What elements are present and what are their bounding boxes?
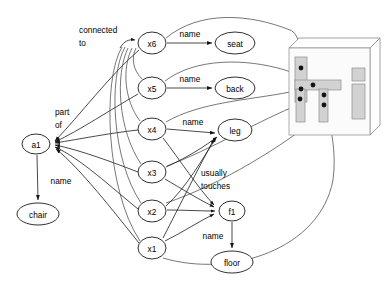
- node-f1-label: f1: [229, 207, 236, 217]
- node-x5-label: x5: [148, 84, 157, 94]
- label-usually-touches-line2: touches: [201, 181, 230, 191]
- node-x4-label: x4: [148, 125, 157, 135]
- edge-x6-a1-part-of: [55, 50, 139, 141]
- label-connected-to-line2: to: [79, 38, 86, 48]
- label-name-floor: name: [203, 231, 224, 241]
- diagram-svg: a1 chair x6 x5 x4 x3 x2 x1: [0, 0, 391, 293]
- label-name-chair: name: [51, 176, 72, 186]
- label-name-back: name: [180, 74, 201, 84]
- node-x3-label: x3: [148, 168, 157, 178]
- joint-back-lower-icon: [299, 87, 304, 92]
- edge-x4-a1-part-of: [55, 130, 138, 143]
- label-connected-to-line1: connected: [79, 25, 118, 35]
- edge-x3-a1-part-of: [55, 145, 138, 172]
- node-x2-label: x2: [148, 207, 157, 217]
- edge-a1-chair-name: [37, 155, 38, 200]
- node-seat-label: seat: [227, 39, 243, 49]
- node-leg-label: leg: [229, 126, 240, 136]
- node-f1[interactable]: f1: [219, 201, 245, 221]
- chair-leg-back: [296, 89, 305, 122]
- node-x5[interactable]: x5: [138, 77, 166, 99]
- node-a1-label: a1: [31, 140, 41, 150]
- joint-leg-front2-icon: [322, 103, 327, 108]
- label-name-leg: name: [183, 117, 204, 127]
- node-x4[interactable]: x4: [138, 118, 166, 140]
- node-x1[interactable]: x1: [138, 237, 166, 259]
- chair-illustration: [289, 38, 380, 135]
- side-square: [352, 68, 365, 81]
- joint-leg-front-icon: [322, 93, 327, 98]
- label-usually-touches-line1: usually: [201, 168, 228, 178]
- node-chair[interactable]: chair: [17, 203, 59, 225]
- label-part-of-line1: part: [55, 107, 70, 117]
- edge-x4-leg-name: [167, 129, 215, 133]
- node-seat[interactable]: seat: [215, 32, 255, 54]
- node-floor-label: floor: [224, 258, 240, 268]
- node-x3[interactable]: x3: [138, 161, 166, 183]
- node-back-label: back: [226, 84, 244, 94]
- node-leg[interactable]: leg: [218, 119, 252, 141]
- joint-back-top-icon: [299, 66, 304, 71]
- joint-seat-mid-icon: [311, 83, 316, 88]
- node-chair-label: chair: [29, 210, 47, 220]
- node-x2[interactable]: x2: [138, 200, 166, 222]
- edge-connected-to-arrowhead: [120, 40, 135, 48]
- label-name-seat: name: [180, 29, 201, 39]
- edge-x5-a1-part-of: [55, 94, 138, 142]
- side-rect: [352, 84, 365, 119]
- node-x1-label: x1: [148, 244, 157, 254]
- name-edge-group: [37, 43, 232, 248]
- node-x6-label: x6: [148, 39, 157, 49]
- joint-leg-back-icon: [298, 97, 303, 102]
- node-floor[interactable]: floor: [211, 251, 253, 273]
- node-back[interactable]: back: [215, 77, 255, 99]
- picture-box-top-face: [289, 38, 380, 48]
- edge-x1-a1-part-of: [56, 149, 139, 243]
- edge-x5-x6-connected-to: [133, 48, 142, 79]
- label-part-of-line2: of: [55, 120, 63, 130]
- picture-box-right-face: [370, 38, 380, 135]
- diagram-canvas: a1 chair x6 x5 x4 x3 x2 x1: [0, 0, 391, 293]
- node-a1[interactable]: a1: [22, 134, 50, 154]
- connected-to-edge-group: [110, 40, 142, 241]
- node-x6[interactable]: x6: [138, 32, 166, 54]
- edge-x2-x6-connected-to: [115, 47, 141, 203]
- edge-x2-f1-usually-touches: [167, 210, 215, 211]
